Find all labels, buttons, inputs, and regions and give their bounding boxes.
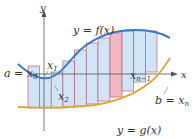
rectangle	[40, 78, 52, 108]
x-axis-arrow-icon	[171, 72, 178, 77]
rectangle	[75, 50, 87, 106]
rectangle	[98, 38, 110, 101]
y-axis-label: y	[39, 2, 46, 13]
g-curve-label: y = g(x)	[116, 124, 161, 137]
b-xn-label: b = xn	[155, 94, 189, 108]
x-axis-label: x	[181, 69, 187, 80]
area-between-curves-diagram: x y y = f(x) y = g(x) a = x0 x1 x2 xn−1 …	[0, 0, 195, 139]
rectangle	[122, 31, 134, 91]
b-leader	[164, 87, 168, 94]
rectangle	[86, 43, 98, 104]
x1-label: x1	[47, 59, 58, 73]
highlighted-rectangle	[110, 33, 122, 97]
rectangle	[145, 31, 157, 72]
a-x0-label: a = x0	[4, 67, 38, 81]
f-curve-label: y = f(x)	[72, 24, 114, 37]
y-axis: y	[39, 2, 47, 131]
